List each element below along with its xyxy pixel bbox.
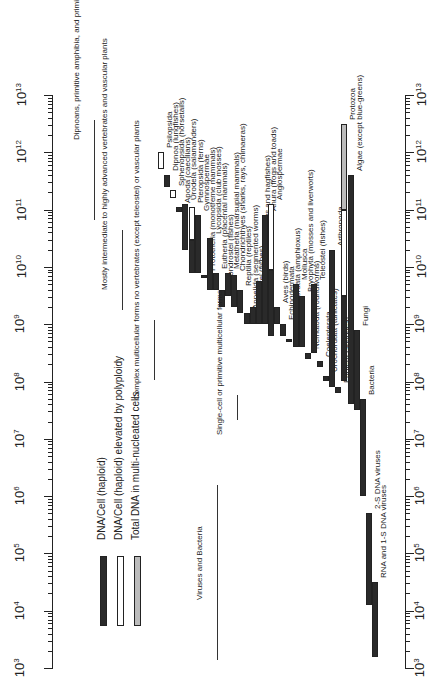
minor-tick xyxy=(405,390,410,391)
minor-tick xyxy=(48,469,53,470)
minor-tick xyxy=(405,347,410,348)
tick-label: 103 xyxy=(412,658,427,677)
tick-label: 108 xyxy=(412,372,427,391)
minor-tick xyxy=(48,628,53,629)
bar-mollusca xyxy=(293,284,299,347)
minor-tick xyxy=(48,394,53,395)
minor-tick xyxy=(48,98,53,99)
minor-tick xyxy=(48,616,53,617)
major-tick xyxy=(405,210,414,211)
minor-tick xyxy=(48,135,53,136)
bar-arthropoda xyxy=(329,250,335,388)
bar-apoda xyxy=(176,207,182,213)
minor-tick xyxy=(48,411,53,412)
minor-tick xyxy=(48,571,53,572)
minor-tick xyxy=(48,387,53,388)
tick-label: 1012 xyxy=(414,140,429,163)
minor-tick xyxy=(405,620,410,621)
minor-tick xyxy=(48,556,53,557)
legend-label: DNA/Cell (haploid) xyxy=(96,457,107,540)
minor-tick xyxy=(48,502,53,503)
minor-tick xyxy=(405,479,410,480)
minor-tick xyxy=(48,526,53,527)
minor-tick xyxy=(405,104,410,105)
minor-tick xyxy=(48,276,53,277)
bar-echinodermata xyxy=(280,324,286,335)
minor-tick xyxy=(405,576,410,577)
bar-eutheria xyxy=(213,273,219,290)
minor-tick xyxy=(405,613,410,614)
minor-tick xyxy=(405,526,410,527)
minor-tick xyxy=(48,108,53,109)
minor-tick xyxy=(48,634,53,635)
bar-segment xyxy=(341,124,347,210)
minor-tick xyxy=(405,399,410,400)
minor-tick xyxy=(48,227,53,228)
minor-tick xyxy=(48,444,53,445)
minor-tick xyxy=(48,364,53,365)
minor-tick xyxy=(405,297,410,298)
minor-tick xyxy=(405,125,410,126)
minor-tick xyxy=(405,170,410,171)
minor-tick xyxy=(405,394,410,395)
minor-tick xyxy=(405,158,410,159)
minor-tick xyxy=(405,98,410,99)
minor-tick xyxy=(405,354,410,355)
minor-tick xyxy=(48,341,53,342)
minor-tick xyxy=(48,479,53,480)
bar-segment xyxy=(341,296,347,382)
bar-lycopsida xyxy=(207,238,213,290)
major-tick xyxy=(44,95,53,96)
minor-tick xyxy=(48,448,53,449)
major-tick xyxy=(44,152,53,153)
minor-tick xyxy=(48,297,53,298)
minor-tick xyxy=(48,158,53,159)
minor-tick xyxy=(405,623,410,624)
minor-tick xyxy=(48,519,53,520)
minor-tick xyxy=(48,222,53,223)
tick-label: 106 xyxy=(12,486,27,505)
minor-tick xyxy=(405,161,410,162)
bar-label: Angiospermae xyxy=(275,148,284,200)
minor-tick xyxy=(405,364,410,365)
minor-tick xyxy=(48,327,53,328)
minor-tick xyxy=(48,280,53,281)
minor-tick xyxy=(405,232,410,233)
bar-label: Algae (except blue-greens) xyxy=(355,75,364,171)
bar-cephalochordata xyxy=(286,339,292,342)
bar-2-s xyxy=(366,513,372,605)
minor-tick xyxy=(405,571,410,572)
major-tick xyxy=(44,210,53,211)
bar-segment xyxy=(268,204,274,270)
bar-label: Teleostei (fishes) xyxy=(318,220,327,280)
minor-tick xyxy=(48,651,53,652)
bar-coelenterata xyxy=(317,361,323,367)
bar-holostei xyxy=(250,307,256,324)
minor-tick xyxy=(405,330,410,331)
bar-metatheria xyxy=(225,273,231,296)
major-tick xyxy=(44,324,53,325)
minor-tick xyxy=(48,347,53,348)
tick-label: 1010 xyxy=(414,255,429,278)
bar-segment xyxy=(189,240,195,273)
bar-label: Bacteria xyxy=(367,365,376,394)
bar-aves xyxy=(274,307,280,324)
tick-label: 103 xyxy=(12,658,27,677)
minor-tick xyxy=(48,165,53,166)
minor-tick xyxy=(48,215,53,216)
minor-tick xyxy=(48,505,53,506)
minor-tick xyxy=(405,270,410,271)
bar-dipnoa xyxy=(164,175,170,186)
major-tick xyxy=(44,267,53,268)
minor-tick xyxy=(48,125,53,126)
minor-tick xyxy=(405,452,410,453)
bar-label: RNA and 1-S DNA viruses xyxy=(379,485,388,578)
bar-psilopsida xyxy=(158,152,164,169)
minor-tick xyxy=(48,354,53,355)
minor-tick xyxy=(48,333,53,334)
minor-tick xyxy=(48,218,53,219)
minor-tick xyxy=(48,290,53,291)
tick-label: 109 xyxy=(412,314,427,333)
minor-tick xyxy=(48,104,53,105)
minor-tick xyxy=(48,536,53,537)
